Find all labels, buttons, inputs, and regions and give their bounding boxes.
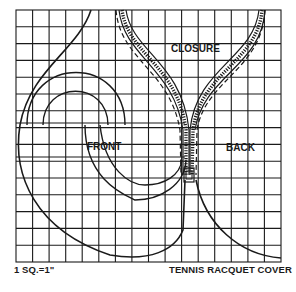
back-piece-outline: [196, 180, 281, 258]
diagram-title: TENNIS RACQUET COVER: [169, 264, 292, 275]
back-label: BACK: [226, 142, 256, 153]
scale-label: 1 SQ.=1": [14, 264, 54, 275]
closure-zipper: [116, 10, 265, 182]
front-outer-arc: [27, 73, 186, 201]
pattern-diagram: FRONT BACK CLOSURE: [0, 0, 296, 292]
front-label: FRONT: [87, 141, 121, 152]
closure-label: CLOSURE: [171, 43, 220, 54]
front-inner-arc: [43, 91, 182, 185]
